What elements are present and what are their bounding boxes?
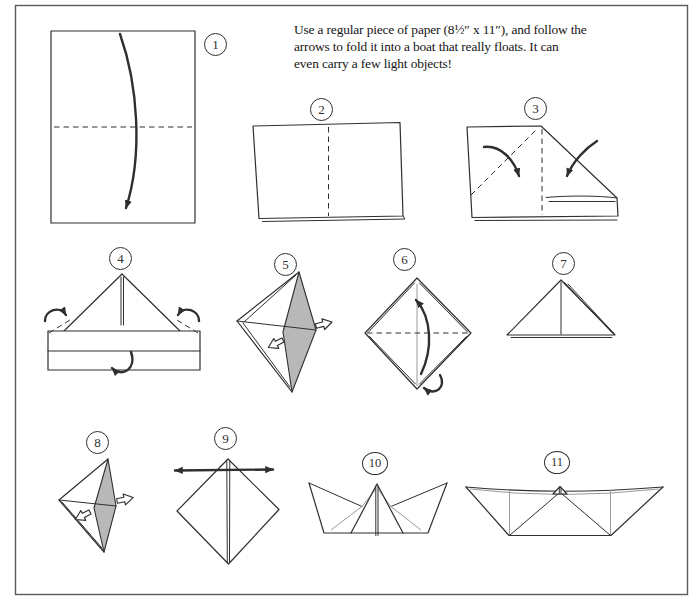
instructions-line: Use a regular piece of paper (8½″ x 11″)… (294, 21, 587, 38)
step-number: 7 (560, 256, 567, 272)
step-number: 8 (94, 435, 101, 451)
step-2-diagram (253, 123, 405, 222)
step-5-diagram (237, 272, 333, 392)
shaded-panel (283, 272, 316, 392)
diagram-canvas (0, 0, 700, 610)
step-3-badge: 3 (524, 97, 547, 120)
step-10-diagram (309, 483, 447, 536)
instructions-text: Use a regular piece of paper (8½″ x 11″)… (294, 21, 587, 73)
instructions-line: even carry a few light objects! (294, 55, 587, 72)
step-3-diagram (467, 126, 618, 221)
hollow-arrow-icon (266, 335, 286, 352)
step-4-diagram (45, 274, 200, 372)
step-9-badge: 9 (214, 427, 237, 450)
curl-arrow-icon (178, 310, 199, 321)
step-1-diagram (51, 31, 195, 223)
hollow-arrow-icon (116, 492, 134, 506)
step-1-badge: 1 (204, 33, 227, 56)
paper-shape (177, 459, 279, 564)
triangle-edges (64, 274, 180, 331)
step-4-badge: 4 (109, 247, 132, 270)
step-8-diagram (59, 459, 134, 552)
step-number: 3 (532, 101, 539, 117)
step-number: 4 (117, 251, 124, 267)
step-7-diagram (507, 280, 615, 338)
step-number: 1 (212, 37, 219, 53)
center-peak (553, 487, 567, 495)
step-5-badge: 5 (274, 253, 297, 276)
step-6-diagram (365, 278, 471, 391)
stretch-arrow-icon (175, 470, 273, 471)
hollow-arrow-icon (73, 507, 93, 524)
step-7-badge: 7 (552, 252, 575, 275)
step-number: 5 (282, 257, 289, 273)
step-number: 9 (222, 431, 229, 447)
step-2-badge: 2 (310, 98, 333, 121)
instructions-line: arrows to fold it into a boat that reall… (294, 38, 587, 55)
step-6-badge: 6 (393, 248, 416, 271)
step-11-diagram (466, 487, 663, 536)
paper-layer-edge (475, 220, 617, 221)
origami-boat-instructions-page: Use a regular piece of paper (8½″ x 11″)… (0, 0, 700, 610)
step-number: 11 (551, 455, 563, 470)
step-8-badge: 8 (86, 431, 109, 454)
step-number: 2 (318, 102, 325, 118)
step-9-diagram (175, 459, 279, 564)
step-number: 6 (401, 252, 408, 268)
hidden-crease (510, 490, 611, 535)
step-11-badge: 11 (544, 451, 570, 474)
hollow-arrow-icon (315, 317, 334, 332)
center-crease (376, 486, 378, 536)
step-number: 10 (369, 456, 382, 471)
inner-crease (510, 494, 610, 536)
curl-arrow-icon (45, 310, 66, 321)
step-10-badge: 10 (362, 452, 388, 475)
